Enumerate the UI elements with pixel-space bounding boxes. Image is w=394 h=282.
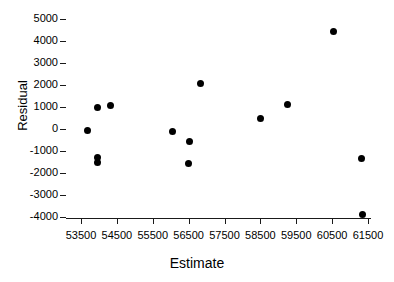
y-axis-tick-label: -4000 bbox=[12, 211, 58, 222]
data-point bbox=[94, 159, 101, 166]
x-axis-tick bbox=[81, 219, 82, 224]
data-point bbox=[330, 28, 337, 35]
data-point bbox=[284, 101, 291, 108]
data-point bbox=[94, 104, 101, 111]
data-point bbox=[197, 80, 204, 87]
data-point bbox=[359, 211, 366, 218]
x-axis-tick bbox=[225, 219, 226, 224]
x-axis-tick-label: 61500 bbox=[346, 229, 390, 241]
data-point bbox=[107, 102, 114, 109]
x-axis-tick bbox=[189, 219, 190, 224]
x-axis-line bbox=[66, 218, 371, 219]
y-axis-tick-label: 4000 bbox=[12, 35, 58, 46]
x-axis-tick bbox=[332, 219, 333, 224]
y-axis-tick-label: -3000 bbox=[12, 189, 58, 200]
y-axis-tick-label: 1000 bbox=[12, 101, 58, 112]
y-axis-tick-label: 0 bbox=[12, 123, 58, 134]
data-point bbox=[169, 128, 176, 135]
x-axis-tick bbox=[368, 219, 369, 224]
scatter-plot-figure: Residual 500040003000200010000-1000-2000… bbox=[0, 0, 394, 282]
x-axis-tick bbox=[153, 219, 154, 224]
y-axis-tick-label: -1000 bbox=[12, 145, 58, 156]
y-axis-tick-label: 3000 bbox=[12, 57, 58, 68]
x-axis-title: Estimate bbox=[0, 255, 394, 271]
y-axis-tick-label: 2000 bbox=[12, 79, 58, 90]
x-axis-tick bbox=[260, 219, 261, 224]
data-point bbox=[186, 138, 193, 145]
data-point bbox=[185, 160, 192, 167]
y-axis-tick-label: -2000 bbox=[12, 167, 58, 178]
data-point bbox=[257, 115, 264, 122]
data-point bbox=[84, 127, 91, 134]
x-axis-tick bbox=[296, 219, 297, 224]
data-point bbox=[358, 155, 365, 162]
plot-area bbox=[66, 14, 370, 218]
y-axis-tick-label: 5000 bbox=[12, 13, 58, 24]
x-axis-tick bbox=[117, 219, 118, 224]
